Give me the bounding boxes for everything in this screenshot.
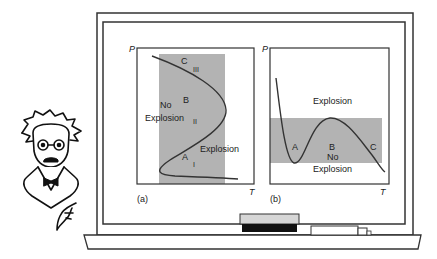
panel-b-caption: (b) <box>270 194 281 204</box>
panel-b-shaded-region <box>270 118 382 163</box>
panel-a-limit-second: II <box>193 118 197 125</box>
eraser-felt <box>242 224 297 232</box>
scene: P T (a) C III B No Explosion II Explosio… <box>0 0 437 259</box>
panel-b-point-c: C <box>370 142 377 152</box>
panel-b-x-axis-label: T <box>380 187 387 197</box>
panel-a-no-label: No <box>160 100 172 110</box>
panel-b-no-label: No <box>327 152 339 162</box>
panel-a-point-a: A <box>182 152 188 162</box>
panel-a-point-c: C <box>181 56 188 66</box>
chalk-piece <box>311 226 358 235</box>
professor-figure <box>22 110 81 230</box>
pointing-hand <box>57 203 76 230</box>
panel-a-caption: (a) <box>137 194 148 204</box>
panel-b-no-explosion-label: Explosion <box>313 164 352 174</box>
panel-b-explosion-label: Explosion <box>313 96 352 106</box>
panel-b-point-a: A <box>292 142 298 152</box>
panel-a: P T (a) C III B No Explosion II Explosio… <box>129 44 256 204</box>
torso <box>24 167 78 208</box>
panel-a-no-explosion-label: Explosion <box>145 113 184 123</box>
moustache <box>44 158 58 162</box>
chalk-piece-small <box>358 228 367 235</box>
panel-b-y-axis-label: P <box>262 44 268 54</box>
panel-a-limit-first: I <box>193 161 195 168</box>
panel-a-explosion-label: Explosion <box>200 144 239 154</box>
panel-a-point-b: B <box>183 95 189 105</box>
panel-b: P T (b) Explosion A B C No Explosion <box>262 44 389 204</box>
panel-a-x-axis-label: T <box>249 187 256 197</box>
chalk-tray <box>84 214 421 249</box>
eraser-top <box>240 214 299 224</box>
panel-a-limit-third: III <box>193 66 199 73</box>
panel-a-y-axis-label: P <box>129 44 135 54</box>
panel-b-point-b: B <box>329 142 335 152</box>
